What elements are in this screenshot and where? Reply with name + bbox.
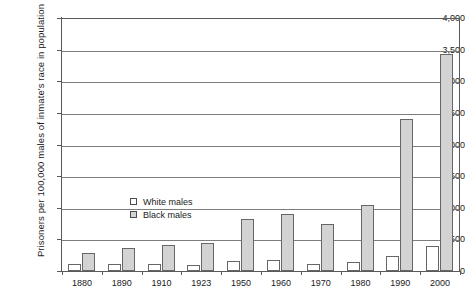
bar: [267, 260, 280, 271]
bar-chart: Prisoners per 100,000 males of inmate's …: [0, 0, 465, 300]
plot-area: White males Black males: [62, 18, 460, 271]
bar: [108, 264, 121, 271]
bar: [400, 119, 413, 271]
bar: [426, 246, 439, 271]
bar: [122, 248, 135, 271]
x-axis-tick-mark: [261, 271, 262, 275]
bar-group: [227, 19, 255, 271]
x-axis-tick-label: 2000: [417, 278, 463, 288]
bar: [281, 214, 294, 271]
x-axis-tick-mark: [181, 271, 182, 275]
bar: [307, 264, 320, 271]
legend-item-black-males: Black males: [130, 208, 193, 221]
bar: [82, 253, 95, 271]
bar: [321, 224, 334, 271]
bar: [187, 265, 200, 271]
x-axis-tick-mark: [142, 271, 143, 275]
x-axis-tick-mark: [341, 271, 342, 275]
legend-label-white-males: White males: [143, 197, 193, 207]
bar: [68, 264, 81, 271]
bar-group: [426, 19, 454, 271]
legend-label-black-males: Black males: [143, 210, 192, 220]
bar: [440, 54, 453, 271]
bar-group: [386, 19, 414, 271]
bar: [347, 262, 360, 271]
bar-group: [148, 19, 176, 271]
bar-group: [108, 19, 136, 271]
x-axis-tick-mark: [221, 271, 222, 275]
y-axis-title: Prisoners per 100,000 males of inmate's …: [35, 0, 46, 266]
x-axis-tick-mark: [62, 271, 63, 275]
bar: [201, 243, 214, 271]
bar: [361, 205, 374, 271]
bar-group: [267, 19, 295, 271]
bar: [386, 256, 399, 271]
bar-group: [187, 19, 215, 271]
x-axis-tick-mark: [420, 271, 421, 275]
x-axis-tick-mark: [102, 271, 103, 275]
bar: [162, 245, 175, 271]
bar: [227, 261, 240, 271]
legend-swatch-black-males: [130, 211, 137, 218]
x-axis-tick-mark: [380, 271, 381, 275]
bar-group: [68, 19, 96, 271]
bar-group: [307, 19, 335, 271]
legend: White males Black males: [130, 195, 193, 221]
bar: [241, 219, 254, 271]
bar-group: [347, 19, 375, 271]
x-axis-tick-mark: [301, 271, 302, 275]
x-axis-tick-mark: [460, 271, 461, 275]
legend-item-white-males: White males: [130, 195, 193, 208]
legend-swatch-white-males: [130, 198, 137, 205]
bar: [148, 264, 161, 271]
